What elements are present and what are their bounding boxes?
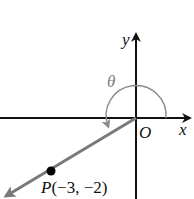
origin-label: O <box>139 123 151 142</box>
y-axis-label: y <box>120 30 130 49</box>
point-p-coords: (−3, −2) <box>51 178 107 197</box>
point-p-name: P <box>40 178 51 197</box>
point-p-marker <box>47 167 56 176</box>
angle-diagram: y x O θ P(−3, −2) <box>0 0 194 199</box>
x-axis-label: x <box>178 120 187 139</box>
point-p-label: P(−3, −2) <box>40 178 107 197</box>
theta-label: θ <box>107 72 115 91</box>
